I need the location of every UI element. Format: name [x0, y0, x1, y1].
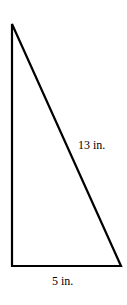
base-label: 5 in. [52, 274, 73, 288]
triangle-diagram: 13 in. 5 in. [0, 0, 127, 305]
hypotenuse-label: 13 in. [78, 138, 105, 152]
